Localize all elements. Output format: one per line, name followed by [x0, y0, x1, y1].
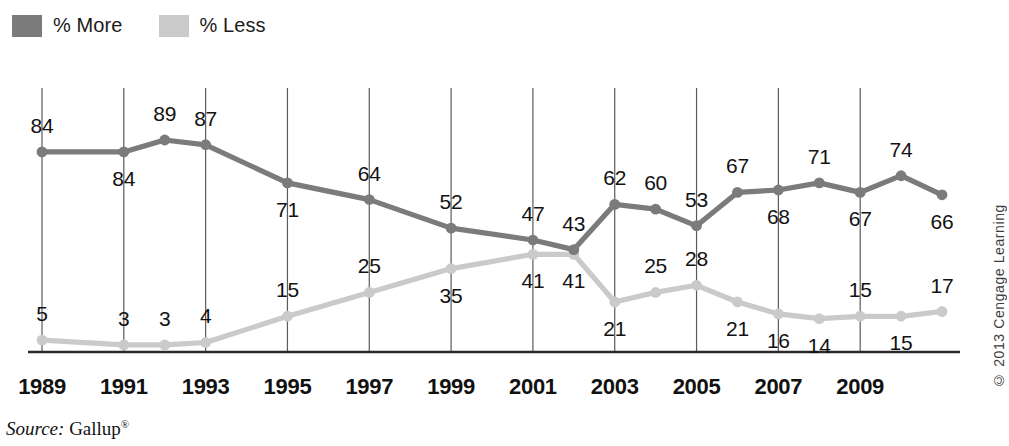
chart-canvas [0, 0, 1009, 400]
value-label: 15 [276, 278, 299, 302]
data-point [528, 235, 539, 246]
x-tick-label: 2003 [591, 374, 639, 400]
data-point [937, 189, 948, 200]
value-label: 21 [726, 317, 749, 341]
data-point [814, 177, 825, 188]
value-label: 5 [36, 302, 47, 326]
data-point [568, 244, 579, 255]
data-point [159, 135, 170, 146]
value-label: 43 [562, 212, 585, 236]
value-label: 60 [644, 171, 667, 195]
copyright-credit: © 2013 Cengage Learning [991, 204, 1007, 388]
value-label: 41 [562, 269, 585, 293]
data-point [609, 199, 620, 210]
data-point [446, 223, 457, 234]
value-label: 35 [440, 284, 463, 308]
value-label: 89 [153, 102, 176, 126]
data-point [896, 311, 907, 322]
data-point [118, 147, 129, 158]
series-line-less [42, 254, 942, 345]
data-point [650, 287, 661, 298]
data-point [691, 220, 702, 231]
value-label: 15 [890, 331, 913, 355]
data-point [159, 339, 170, 350]
value-label: 3 [118, 307, 129, 331]
data-point [446, 263, 457, 274]
value-label: 25 [358, 254, 381, 278]
data-point [364, 194, 375, 205]
value-label: 52 [440, 190, 463, 214]
value-label: 17 [931, 274, 954, 298]
data-point [118, 339, 129, 350]
value-label: 14 [808, 334, 831, 358]
x-tick-label: 1993 [182, 374, 230, 400]
value-label: 4 [200, 304, 211, 328]
data-point [37, 147, 48, 158]
value-label: 84 [112, 167, 135, 191]
data-point [200, 337, 211, 348]
value-label: 67 [726, 154, 749, 178]
value-label: 66 [931, 210, 954, 234]
x-tick-label: 2005 [673, 374, 721, 400]
data-point [691, 280, 702, 291]
value-label: 21 [603, 317, 626, 341]
x-tick-label: 1991 [100, 374, 148, 400]
chart-figure: % More % Less 84848987716452474362605367… [0, 0, 1009, 446]
value-label: 71 [276, 198, 299, 222]
plot-area: 8484898771645247436260536768716774665334… [0, 0, 1009, 400]
x-tick-label: 1999 [427, 374, 475, 400]
value-label: 25 [644, 254, 667, 278]
source-prefix: Source: [6, 418, 64, 439]
data-point [364, 287, 375, 298]
data-point [650, 204, 661, 215]
x-tick-label: 2001 [509, 374, 557, 400]
source-note: Source: Gallup® [6, 418, 129, 440]
value-label: 64 [358, 162, 381, 186]
data-point [282, 177, 293, 188]
value-label: 41 [521, 269, 544, 293]
x-tick-label: 1989 [18, 374, 66, 400]
data-point [937, 306, 948, 317]
x-tick-label: 1997 [345, 374, 393, 400]
data-point [773, 185, 784, 196]
value-label: 87 [194, 107, 217, 131]
value-label: 84 [31, 114, 54, 138]
x-tick-label: 2007 [754, 374, 802, 400]
value-label: 47 [521, 202, 544, 226]
data-point [773, 308, 784, 319]
data-point [855, 311, 866, 322]
value-label: 67 [849, 207, 872, 231]
data-point [814, 313, 825, 324]
value-label: 3 [159, 307, 170, 331]
value-label: 28 [685, 247, 708, 271]
data-point [732, 297, 743, 308]
data-point [896, 170, 907, 181]
data-point [732, 187, 743, 198]
value-label: 62 [603, 166, 626, 190]
value-label: 68 [767, 205, 790, 229]
source-name: Gallup [69, 418, 121, 439]
value-label: 53 [685, 188, 708, 212]
data-point [528, 249, 539, 260]
value-label: 71 [808, 145, 831, 169]
registered-mark-icon: ® [121, 418, 129, 430]
data-point [609, 297, 620, 308]
data-point [855, 187, 866, 198]
data-point [200, 139, 211, 150]
data-point [282, 311, 293, 322]
value-label: 16 [767, 329, 790, 353]
value-label: 15 [849, 278, 872, 302]
value-label: 74 [890, 138, 913, 162]
x-tick-label: 2009 [836, 374, 884, 400]
x-tick-label: 1995 [264, 374, 312, 400]
data-point [37, 335, 48, 346]
